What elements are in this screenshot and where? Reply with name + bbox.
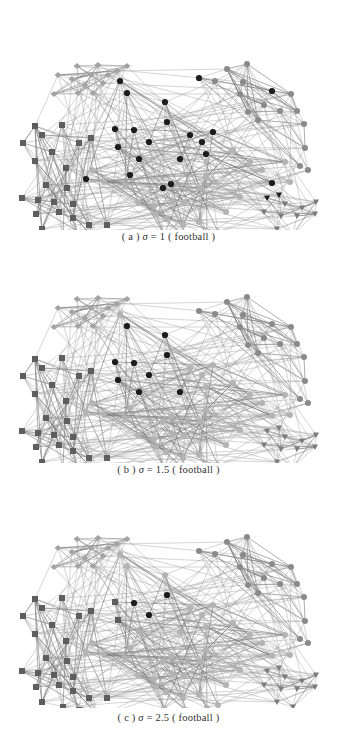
node-gray	[240, 312, 246, 318]
caption-a: ( a ) σ = 1 ( football )	[0, 231, 337, 242]
node-square	[70, 688, 76, 694]
node-black	[83, 176, 89, 182]
node-black	[117, 78, 123, 84]
node-black	[203, 151, 209, 157]
node-light	[122, 415, 128, 421]
node-light	[259, 640, 265, 646]
node-square	[19, 668, 25, 674]
node-light	[197, 658, 203, 664]
node-light	[168, 654, 174, 660]
node-gray	[294, 108, 300, 114]
node-gray	[244, 534, 250, 540]
node-square	[59, 122, 65, 128]
node-light	[181, 672, 187, 678]
network-graph-b	[0, 263, 337, 463]
node-square	[88, 608, 94, 614]
node-black	[127, 172, 133, 178]
node-square	[35, 430, 41, 436]
node-light	[177, 629, 183, 635]
node-black	[115, 377, 121, 383]
node-light	[161, 705, 167, 708]
node-square	[63, 165, 69, 171]
node-gray	[245, 109, 251, 115]
node-square	[32, 123, 38, 129]
node-square	[64, 185, 70, 191]
node-gray	[305, 400, 311, 406]
node-gray	[244, 61, 250, 67]
node-square	[115, 617, 121, 623]
node-light	[203, 647, 209, 653]
node-light	[230, 147, 236, 153]
node-gray	[277, 341, 283, 347]
node-light	[122, 655, 128, 661]
caption-prefix: ( a )	[122, 231, 140, 242]
node-light	[282, 632, 288, 638]
node-light	[187, 365, 193, 371]
node-gray	[302, 145, 308, 151]
node-gray	[212, 311, 218, 317]
node-light	[210, 362, 216, 368]
node-square	[51, 672, 57, 678]
node-light	[135, 672, 141, 678]
node-square	[64, 418, 70, 424]
node-light	[180, 695, 186, 701]
panel-a: ( a ) σ = 1 ( football )	[0, 30, 337, 250]
node-black	[112, 359, 118, 365]
node-light	[269, 653, 275, 659]
node-diamond	[74, 536, 81, 542]
node-gray	[288, 91, 294, 97]
node-light	[287, 179, 293, 185]
node-light	[269, 413, 275, 419]
caption-b: ( b ) σ = 1.5 ( football )	[0, 464, 337, 475]
node-light	[196, 219, 202, 225]
node-black	[131, 127, 137, 133]
node-square	[104, 222, 110, 228]
node-black	[136, 389, 142, 395]
node-light	[151, 436, 157, 442]
node-square	[70, 434, 76, 440]
node-light	[203, 624, 209, 630]
node-light	[89, 167, 95, 173]
node-gray	[196, 308, 202, 314]
node-light	[127, 645, 133, 651]
node-light	[197, 185, 203, 191]
node-light	[170, 199, 176, 205]
node-square	[60, 704, 66, 708]
node-diamond	[74, 63, 81, 69]
node-square	[43, 655, 49, 661]
node-gray	[302, 378, 308, 384]
node-black	[164, 352, 170, 358]
node-square	[39, 699, 45, 705]
node-light	[212, 412, 218, 418]
node-square	[19, 195, 25, 201]
node-light	[247, 632, 253, 638]
node-light	[127, 405, 133, 411]
node-light	[203, 384, 209, 390]
node-black	[162, 99, 168, 105]
node-square	[86, 222, 92, 228]
node-light	[163, 216, 169, 222]
node-light	[287, 652, 293, 658]
node-light	[230, 620, 236, 626]
node-light	[212, 179, 218, 185]
node-gray	[294, 341, 300, 347]
node-light	[136, 629, 142, 635]
caption-dataset: ( football )	[172, 464, 219, 475]
network-graph-a	[0, 30, 337, 230]
node-light	[247, 392, 253, 398]
node-black	[187, 132, 193, 138]
node-diamond	[74, 296, 81, 302]
node-light	[181, 432, 187, 438]
node-light	[163, 689, 169, 695]
node-light	[151, 203, 157, 209]
node-square	[104, 455, 110, 461]
node-square	[56, 442, 62, 448]
node-light	[163, 449, 169, 455]
node-gray	[237, 324, 243, 330]
node-gray	[297, 163, 303, 169]
node-light	[153, 444, 159, 450]
node-light	[187, 605, 193, 611]
node-square	[35, 670, 41, 676]
node-square	[39, 226, 45, 230]
node-light	[212, 652, 218, 658]
